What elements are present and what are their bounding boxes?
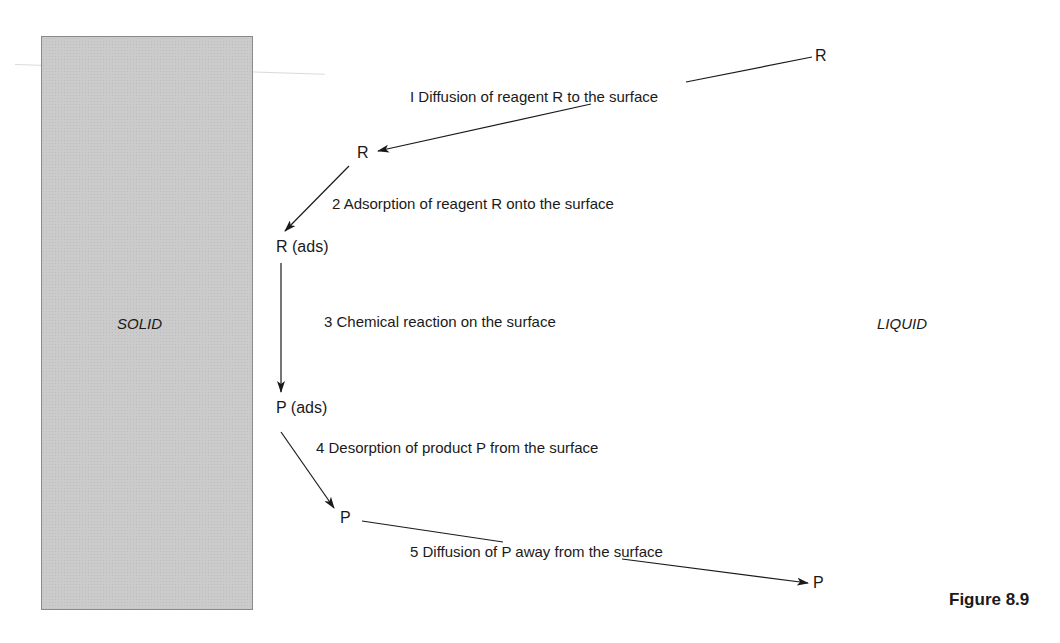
- arrow-step-5: [362, 521, 808, 583]
- arrow-step-1: [378, 57, 812, 151]
- arrows-layer: [0, 0, 1060, 643]
- arrow-step-4: [281, 432, 334, 508]
- arrow-step-2: [285, 166, 349, 231]
